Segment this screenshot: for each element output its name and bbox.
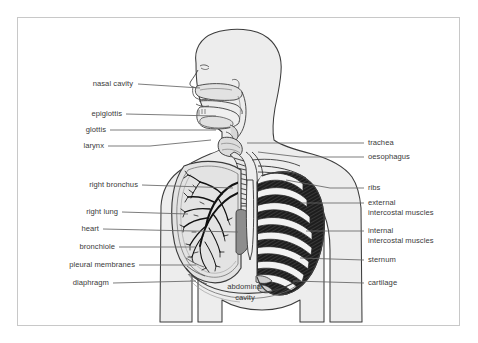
label-abdominal-line1: abdominal (215, 281, 275, 292)
label-bronchiole: bronchiole (0, 242, 115, 252)
respiratory-system-figure: nasal cavity epiglottis glottis larynx r… (0, 0, 478, 343)
label-nasal-cavity: nasal cavity (0, 79, 133, 89)
label-internal-line2: intercostal muscles (368, 236, 434, 246)
label-epiglottis: epiglottis (0, 109, 122, 119)
sternum (246, 180, 253, 260)
label-right-lung: right lung (0, 207, 118, 217)
label-glottis: glottis (0, 125, 106, 135)
label-ribs: ribs (368, 183, 380, 193)
label-pleural-membranes: pleural membranes (0, 260, 135, 270)
label-sternum: sternum (368, 255, 396, 265)
label-oesophagus: oesophagus (368, 152, 410, 162)
label-internal-intercostal-muscles: internal intercostal muscles (368, 226, 434, 245)
label-larynx: larynx (0, 141, 104, 151)
label-abdominal-line2: cavity (215, 292, 275, 303)
label-heart: heart (0, 224, 99, 234)
label-diaphragm: diaphragm (0, 278, 109, 288)
label-cartilage: cartilage (368, 278, 397, 288)
label-external-intercostal-muscles: external intercostal muscles (368, 198, 434, 217)
label-right-bronchus: right bronchus (0, 180, 138, 190)
label-external-line2: intercostal muscles (368, 208, 434, 218)
nasal-cavity-and-pharynx (195, 84, 246, 157)
label-trachea: trachea (368, 138, 394, 148)
label-external-line1: external (368, 198, 434, 208)
label-abdominal-cavity: abdominal cavity (215, 281, 275, 303)
label-internal-line1: internal (368, 226, 434, 236)
